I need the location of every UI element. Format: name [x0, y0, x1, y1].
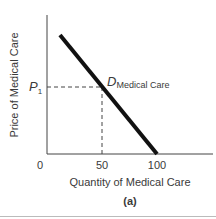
x-axis-title: Quantity of Medical Care — [69, 176, 190, 188]
y-tick-p1: P1 — [29, 79, 43, 96]
x-tick-0: 0 — [37, 159, 43, 171]
demand-curve — [60, 35, 157, 154]
demand-chart: DMedical Care P1 0 50 100 Quantity of Me… — [0, 0, 216, 219]
panel-label: (a) — [123, 195, 137, 207]
demand-label: DMedical Care — [107, 74, 169, 90]
x-tick-100: 100 — [148, 159, 166, 171]
demand-label-subscript: Medical Care — [116, 80, 169, 90]
x-tick-50: 50 — [96, 159, 108, 171]
y-axis-title: Price of Medical Care — [8, 32, 20, 137]
